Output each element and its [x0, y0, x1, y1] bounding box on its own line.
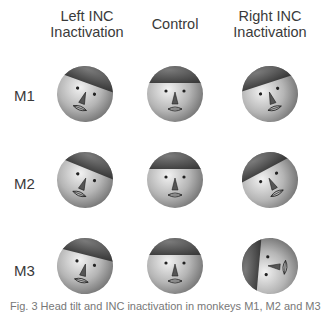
column-header-left-line1: Left INC: [42, 8, 132, 24]
face-m3-left: [55, 236, 115, 296]
column-header-right-line1: Right INC: [225, 8, 315, 24]
face-m3-control: [145, 236, 205, 296]
column-header-control-line1: Control: [130, 16, 220, 32]
row-label-m3: M3: [14, 262, 35, 279]
figure-caption: Fig. 3 Head tilt and INC inactivation in…: [10, 300, 321, 312]
row-label-m2: M2: [14, 175, 35, 192]
face-m1-right: [240, 64, 300, 124]
face-m1-control: [145, 64, 205, 124]
face-m2-left: [55, 150, 115, 210]
column-header-left: Left INC Inactivation: [42, 8, 132, 40]
face-m2-right: [240, 150, 300, 210]
column-header-right-line2: Inactivation: [225, 24, 315, 40]
face-m2-control: [145, 150, 205, 210]
column-header-control: Control: [130, 16, 220, 32]
face-m1-left: [55, 64, 115, 124]
row-label-m1: M1: [14, 87, 35, 104]
column-header-left-line2: Inactivation: [42, 24, 132, 40]
face-m3-right: [240, 236, 300, 296]
column-header-right: Right INC Inactivation: [225, 8, 315, 40]
